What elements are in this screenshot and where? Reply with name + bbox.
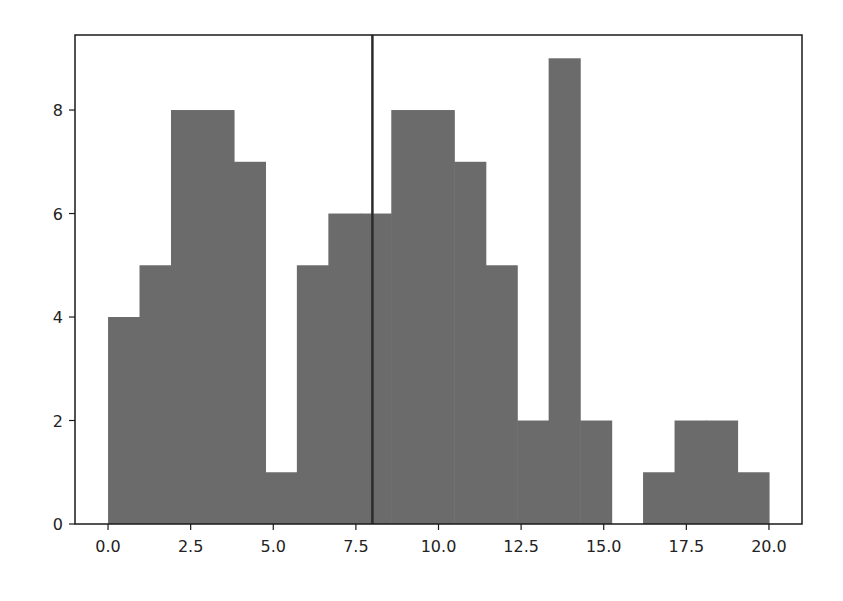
x-tick-label: 15.0 xyxy=(586,537,622,556)
histogram-chart: 0.02.55.07.510.012.515.017.520.0 02468 xyxy=(0,0,843,601)
histogram-bars xyxy=(108,58,770,524)
histogram-bar xyxy=(706,421,738,524)
y-tick-label: 2 xyxy=(53,412,63,431)
histogram-bar xyxy=(265,472,297,524)
x-tick-label: 20.0 xyxy=(751,537,787,556)
histogram-bar xyxy=(423,110,455,524)
histogram-bar xyxy=(517,421,549,524)
x-axis-ticks: 0.02.55.07.510.012.515.017.520.0 xyxy=(95,524,786,556)
histogram-bar xyxy=(643,472,675,524)
x-tick-label: 5.0 xyxy=(261,537,286,556)
y-tick-label: 8 xyxy=(53,101,63,120)
x-tick-label: 2.5 xyxy=(178,537,203,556)
histogram-bar xyxy=(486,265,518,524)
histogram-bar xyxy=(454,162,486,524)
x-tick-label: 12.5 xyxy=(503,537,539,556)
histogram-bar xyxy=(297,265,329,524)
histogram-bar xyxy=(234,162,266,524)
y-tick-label: 4 xyxy=(53,308,63,327)
histogram-bar xyxy=(360,214,392,524)
histogram-bar xyxy=(580,421,612,524)
x-tick-label: 17.5 xyxy=(669,537,705,556)
histogram-bar xyxy=(391,110,423,524)
histogram-bar xyxy=(328,214,360,524)
x-tick-label: 0.0 xyxy=(95,537,120,556)
y-axis-ticks: 02468 xyxy=(53,101,75,534)
histogram-bar xyxy=(675,421,707,524)
histogram-bar xyxy=(171,110,203,524)
x-tick-label: 7.5 xyxy=(343,537,368,556)
histogram-bar xyxy=(108,317,140,524)
y-tick-label: 6 xyxy=(53,205,63,224)
histogram-bar xyxy=(549,58,581,524)
histogram-bar xyxy=(202,110,234,524)
x-tick-label: 10.0 xyxy=(421,537,457,556)
histogram-bar xyxy=(737,472,769,524)
y-tick-label: 0 xyxy=(53,515,63,534)
histogram-bar xyxy=(140,265,172,524)
